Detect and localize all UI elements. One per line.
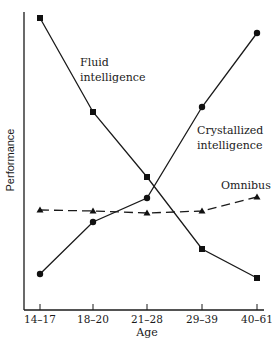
x-tick-label: 29–39 (186, 313, 218, 325)
data-point-circle (254, 30, 260, 36)
x-tick-label: 14–17 (24, 313, 56, 325)
data-point-circle (144, 195, 150, 201)
data-point-square (199, 246, 205, 252)
x-tick-label: 18–20 (77, 313, 109, 325)
series-label: Fluid (80, 56, 109, 69)
data-point-circle (37, 271, 43, 277)
data-point-triangle (254, 194, 261, 200)
x-axis-label: Age (135, 326, 158, 339)
data-point-square (144, 174, 150, 180)
data-point-square (254, 275, 260, 281)
y-axis-label: Performance (4, 129, 16, 192)
data-point-circle (90, 219, 96, 225)
x-tick-label: 21–28 (131, 313, 163, 325)
x-ticks: 14–1718–2021–2829–3940–61 (24, 304, 273, 325)
data-point-square (90, 109, 96, 115)
plot-axes: 14–1718–2021–2829–3940–61 (24, 12, 273, 325)
chart: 14–1718–2021–2829–3940–61 Performance Ag… (0, 0, 278, 343)
series-label: Crystallized (197, 124, 263, 137)
series-label: Omnibus (221, 179, 271, 192)
x-tick-label: 40–61 (241, 313, 273, 325)
data-point-square (37, 15, 43, 21)
series-labels: FluidintelligenceCrystallizedintelligenc… (80, 56, 271, 192)
series-label: intelligence (80, 71, 145, 84)
series-line-1 (40, 33, 257, 274)
series-label: intelligence (197, 139, 262, 152)
data-point-circle (199, 104, 205, 110)
